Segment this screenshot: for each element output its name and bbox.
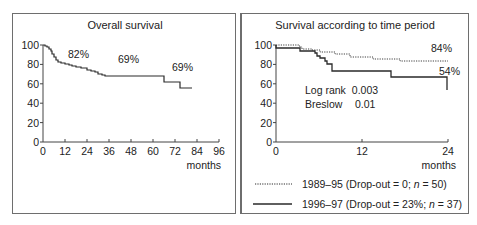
legend-item-1996-97: 1996–97 (Drop-out = 23%; n = 37) — [253, 198, 462, 210]
svg-text:100: 100 — [254, 39, 272, 51]
svg-text:54%: 54% — [439, 65, 460, 77]
chart-title: Survival according to time period — [275, 19, 435, 31]
series-1989-95-curve — [276, 45, 448, 61]
svg-text:Breslow 0.01: Breslow 0.01 — [305, 98, 376, 110]
svg-text:24: 24 — [442, 145, 454, 157]
svg-text:Log rank 0.003: Log rank 0.003 — [305, 84, 378, 96]
svg-text:1989–95 (Drop-out = 0; n = 50): 1989–95 (Drop-out = 0; n = 50) — [302, 178, 447, 190]
charts-canvas-right: Survival according to time period 0 20 4… — [0, 0, 477, 225]
svg-text:0: 0 — [273, 145, 279, 157]
logrank-value: 0.003 — [352, 84, 378, 96]
svg-text:84%: 84% — [431, 42, 452, 54]
y-tick-labels: 0 20 40 60 80 100 — [254, 39, 272, 148]
logrank-label: Log rank — [305, 84, 347, 96]
svg-text:40: 40 — [260, 97, 272, 109]
statistical-tests: Log rank 0.003 Breslow 0.01 — [305, 84, 378, 110]
svg-text:1996–97 (Drop-out = 23%; n = 3: 1996–97 (Drop-out = 23%; n = 37) — [302, 198, 462, 210]
legend: 1989–95 (Drop-out = 0; n = 50) 1996–97 (… — [253, 178, 462, 210]
svg-text:80: 80 — [260, 58, 272, 70]
end-labels: 84% 54% — [431, 42, 460, 77]
svg-text:60: 60 — [260, 78, 272, 90]
legend-item-1989-95: 1989–95 (Drop-out = 0; n = 50) — [255, 178, 447, 190]
svg-text:0: 0 — [266, 136, 272, 148]
svg-text:20: 20 — [260, 117, 272, 129]
x-tick-labels: 0 12 24 — [273, 145, 454, 157]
breslow-value: 0.01 — [355, 98, 376, 110]
breslow-label: Breslow — [305, 98, 343, 110]
svg-text:12: 12 — [356, 145, 368, 157]
time-period-survival-chart: Survival according to time period 0 20 4… — [253, 19, 462, 210]
x-axis-label: months — [422, 159, 456, 171]
